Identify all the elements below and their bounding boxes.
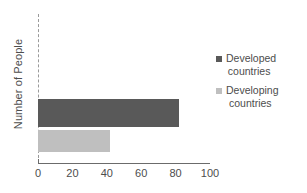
plot-area	[38, 14, 210, 163]
bar-developed-countries[interactable]	[38, 99, 179, 127]
legend-label-line1: Developing	[226, 84, 279, 97]
legend-swatch-icon	[216, 88, 222, 94]
x-axis-origin-tick	[38, 159, 39, 164]
legend-label: Developingcountries	[226, 84, 279, 110]
x-tick-label: 100	[190, 167, 230, 179]
legend-label-line2: countries	[226, 65, 276, 78]
bar-chart: Number of People 020406080100 Developedc…	[0, 0, 307, 193]
bar-developing-countries[interactable]	[38, 130, 110, 152]
x-axis-line	[38, 163, 210, 164]
legend-row: Developedcountries	[216, 52, 304, 78]
legend-label-line1: Developed	[226, 52, 276, 65]
chart-legend: DevelopedcountriesDevelopingcountries	[216, 52, 304, 116]
x-axis-tick-labels: 020406080100	[38, 167, 210, 183]
legend-label-line2: countries	[226, 97, 279, 110]
legend-item[interactable]: Developedcountries	[216, 52, 304, 78]
y-axis-title: Number of People	[12, 19, 24, 149]
legend-label: Developedcountries	[226, 52, 276, 78]
legend-item[interactable]: Developingcountries	[216, 84, 304, 110]
legend-swatch-icon	[216, 56, 222, 62]
legend-row: Developingcountries	[216, 84, 304, 110]
